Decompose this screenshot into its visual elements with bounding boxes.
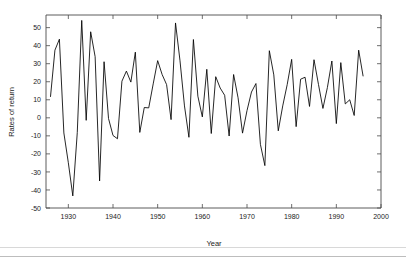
y-tick-label: 0 (37, 114, 41, 121)
y-tick-label: -50 (31, 205, 41, 212)
y-tick-label: -10 (31, 132, 41, 139)
x-tick-label: 2000 (373, 213, 389, 220)
x-tick-label: 1930 (61, 213, 77, 220)
y-tick-label: -30 (31, 169, 41, 176)
y-tick-label: -40 (31, 187, 41, 194)
x-tick-label: 1970 (239, 213, 255, 220)
y-tick-label: 50 (33, 24, 41, 31)
x-tick-label: 1960 (195, 213, 211, 220)
y-tick-label: -20 (31, 150, 41, 157)
y-axis-title: Rates of return (7, 87, 16, 137)
figure-container: 19301940195019601970198019902000 -50-40-… (0, 0, 406, 257)
x-tick-label: 1940 (105, 213, 121, 220)
page-divider-top (0, 247, 406, 248)
x-tick-label: 1950 (150, 213, 166, 220)
y-tick-label: 40 (33, 42, 41, 49)
x-tick-label: 1980 (284, 213, 300, 220)
y-tick-label: 20 (33, 78, 41, 85)
rates-of-return-line-chart: 19301940195019601970198019902000 -50-40-… (0, 0, 406, 257)
y-tick-label: 10 (33, 96, 41, 103)
y-tick-label: 30 (33, 60, 41, 67)
x-tick-label: 1990 (329, 213, 345, 220)
